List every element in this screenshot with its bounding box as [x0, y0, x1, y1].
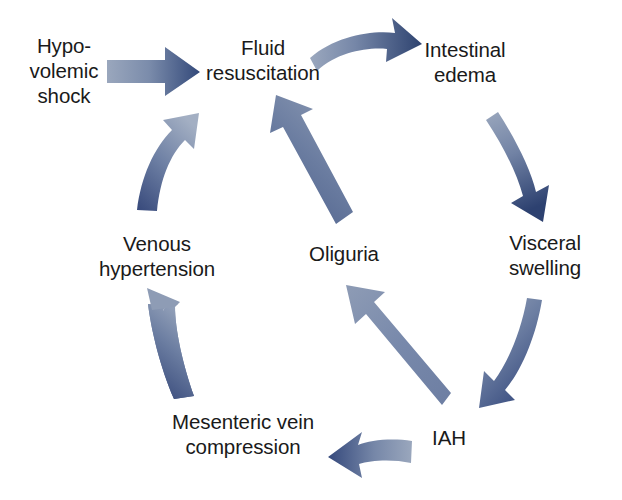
cycle-diagram: Hypo- volemic shock Fluid resuscitation …: [0, 0, 622, 500]
node-venous-hypertension: Venous hypertension: [99, 231, 215, 281]
node-visceral-swelling: Visceral swelling: [509, 230, 581, 280]
arrow-iah-to-mesenteric: [328, 432, 412, 478]
arrow-fluid-to-edema: [310, 18, 422, 71]
arrow-venous-to-fluid: [137, 113, 199, 211]
node-mesenteric-vein-compression: Mesenteric vein compression: [172, 409, 314, 459]
arrow-oliguria-to-fluid: [270, 95, 353, 224]
node-iah: IAH: [432, 425, 466, 450]
arrow-shock-to-fluid: [107, 47, 200, 96]
node-fluid-resuscitation: Fluid resuscitation: [206, 35, 320, 85]
arrow-mesenteric-to-venous: [147, 288, 194, 399]
arrow-edema-to-swelling: [486, 112, 549, 222]
arrow-swelling-to-iah: [479, 298, 542, 408]
arrow-iah-to-oliguria: [346, 285, 451, 405]
node-intestinal-edema: Intestinal edema: [424, 37, 505, 87]
node-hypovolemic-shock: Hypo- volemic shock: [30, 33, 99, 108]
node-oliguria: Oliguria: [309, 241, 379, 266]
